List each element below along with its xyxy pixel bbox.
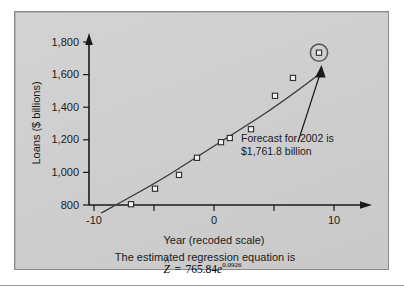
annotation-arrowhead <box>315 65 325 78</box>
x-axis: -10 0 10 Year (recoded scale) <box>86 201 372 246</box>
y-tick-label-1200: 1,200 <box>51 133 79 145</box>
data-point <box>128 202 133 207</box>
data-point <box>152 186 157 191</box>
data-point <box>290 75 295 80</box>
data-point-markers <box>128 50 321 207</box>
y-axis-ticks <box>83 42 89 205</box>
loans-exponential-chart: 800 1,000 1,200 1,400 1,600 1,800 Loans … <box>15 12 390 271</box>
y-axis-arrowhead <box>85 33 93 45</box>
x-axis-arrowhead <box>360 201 372 209</box>
equation-equals: = <box>174 263 181 275</box>
y-tick-label-1600: 1,600 <box>51 68 79 80</box>
y-tick-label-1400: 1,400 <box>51 101 79 113</box>
y-tick-label-1800: 1,800 <box>51 36 79 48</box>
equation-hat-symbol: ^ <box>165 257 170 267</box>
data-point <box>218 140 223 145</box>
x-tick-label-minus10: -10 <box>86 214 102 226</box>
y-tick-label-1000: 1,000 <box>51 166 79 178</box>
annotation-line-2: $1,761.8 billion <box>241 145 312 157</box>
equation-exponent: 0.0926 <box>222 261 241 269</box>
forecast-annotation: Forecast for 2002 is $1,761.8 billion <box>227 65 334 157</box>
chart-figure-panel: 800 1,000 1,200 1,400 1,600 1,800 Loans … <box>14 11 389 270</box>
x-axis-title: Year (recoded scale) <box>163 234 264 246</box>
y-axis: 800 1,000 1,200 1,400 1,600 1,800 Loans … <box>30 33 93 211</box>
data-point-forecast <box>316 50 321 55</box>
data-point <box>194 155 199 160</box>
data-point <box>176 172 181 177</box>
forecast-legend-marker <box>227 135 232 140</box>
regression-equation: ^ Z = 765.84e0.0926 <box>15 260 390 276</box>
x-tick-label-10: 10 <box>328 214 340 226</box>
y-tick-label-800: 800 <box>61 199 79 211</box>
equation-coefficient: 765.84 <box>185 263 217 275</box>
bottom-divider-rule <box>0 285 404 286</box>
y-axis-title: Loans ($ billions) <box>30 81 42 164</box>
annotation-line-1: Forecast for 2002 is <box>241 132 334 144</box>
data-point <box>272 93 277 98</box>
x-tick-label-0: 0 <box>211 214 217 226</box>
